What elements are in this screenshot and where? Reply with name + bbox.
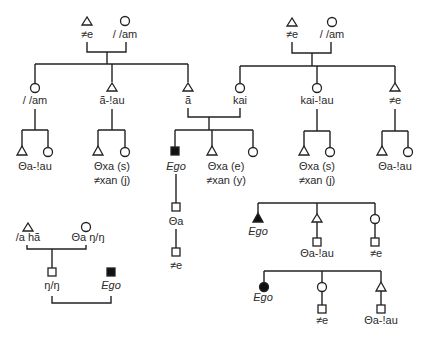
left-mother-name: / /am [113, 28, 137, 40]
person-square-icon [313, 238, 321, 246]
bottom-right-male-ego: Ego Θa-!au ≠e [248, 203, 382, 259]
male-triangle-icon [17, 146, 27, 155]
mother-name: Θa ŋ/ŋ [71, 231, 104, 243]
male-triangle-icon [183, 83, 193, 91]
father-name: /a hã [16, 231, 41, 243]
sibling-bracket [52, 296, 111, 303]
child-name: kai [233, 94, 247, 106]
child-name: ≠e [389, 94, 401, 106]
ego-grandchild-label: ≠e [170, 259, 182, 271]
child-label: ≠e [370, 247, 382, 259]
male-triangle-icon [207, 146, 217, 155]
ego-label: Ego [248, 225, 268, 237]
male-triangle-icon [82, 17, 92, 25]
male-triangle-icon [107, 83, 117, 91]
children-label: Θa-!au [18, 160, 52, 172]
child-name: / /am [23, 94, 47, 106]
female-circle-icon [121, 148, 130, 157]
sibling-label: ≠xan (y) [206, 174, 246, 186]
right-father-name: ≠e [286, 28, 298, 40]
female-circle-icon [313, 84, 322, 93]
children-label: Θa-!au [378, 160, 412, 172]
ego-label: Ego [253, 291, 273, 303]
descent-line [382, 109, 408, 148]
sibling-label: Θxa (e) [208, 160, 245, 172]
child-label: ≠e [316, 314, 328, 326]
bottom-left-family: /a hã Θa ŋ/ŋ ŋ/ŋ Ego [16, 223, 121, 304]
male-triangle-icon [376, 282, 386, 291]
person-square-icon [371, 238, 379, 246]
marriage-line [292, 42, 331, 53]
child-name: ŋ/ŋ [44, 279, 59, 291]
left-father-name: ≠e [81, 28, 93, 40]
sibling-drop [258, 203, 375, 214]
male-triangle-icon [377, 146, 387, 155]
male-triangle-icon [93, 146, 103, 155]
male-triangle-icon [312, 214, 322, 222]
male-triangle-icon [299, 146, 309, 155]
female-circle-icon [326, 148, 335, 157]
sibling-drop [264, 271, 381, 283]
children-label: ≠xan (j) [299, 174, 336, 186]
right-family: ≠e / /am kai kai-!au Θxa (s) ≠xan (j) ≠e… [233, 18, 413, 187]
child-name: ã-!au [99, 94, 124, 106]
female-circle-icon [44, 148, 53, 157]
person-square-icon [172, 248, 180, 256]
kinship-diagram: ≠e / /am / /am Θa-!au ã-!au Θxa (s) ≠xan… [0, 0, 427, 342]
sibling-drop [175, 130, 253, 148]
female-circle-icon [404, 148, 413, 157]
children-label: Θxa (s) [299, 160, 335, 172]
female-circle-icon [328, 18, 337, 27]
descent-line [22, 109, 48, 148]
person-square-icon [377, 305, 385, 313]
male-triangle-icon [390, 83, 400, 91]
child-label: Θa-!au [300, 247, 334, 259]
male-triangle-icon [23, 223, 33, 231]
ego-label: Ego [166, 160, 186, 172]
female-circle-icon [249, 148, 258, 157]
child-label: Θa-!au [364, 314, 398, 326]
right-mother-name: / /am [320, 28, 344, 40]
center-family: Ego Θxa (e) ≠xan (y) Θa ≠e [166, 108, 257, 271]
male-triangle-icon [287, 18, 297, 26]
marriage-line [188, 108, 240, 117]
bottom-right-female-ego: Ego ≠e Θa-!au [253, 271, 398, 326]
marriage-line [87, 42, 126, 52]
female-circle-icon [236, 84, 245, 93]
ego-label: Ego [101, 279, 121, 291]
person-square-icon [318, 305, 326, 313]
ego-filled-triangle-icon [253, 213, 263, 222]
female-circle-icon [318, 283, 327, 292]
female-circle-icon [371, 215, 380, 224]
female-circle-icon [121, 17, 130, 26]
children-label: Θxa (s) [94, 160, 130, 172]
ego-filled-square-icon [107, 268, 115, 276]
ego-child-label: Θa [169, 215, 185, 227]
person-square-icon [48, 268, 56, 276]
descent-line [98, 109, 125, 148]
child-name: kai-!au [300, 94, 333, 106]
sibling-drop [240, 66, 395, 84]
ego-filled-square-icon [171, 147, 179, 155]
person-square-icon [172, 203, 180, 211]
child-name: ã [185, 94, 192, 106]
marriage-line [27, 245, 86, 249]
female-circle-icon [31, 84, 40, 93]
sibling-drop [35, 64, 188, 83]
descent-line [304, 109, 330, 148]
children-label: ≠xan (j) [94, 174, 131, 186]
